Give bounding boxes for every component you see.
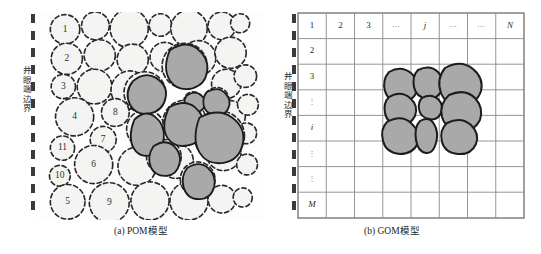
- svg-text:M: M: [307, 199, 316, 209]
- gom-grain-blobs: [382, 64, 482, 154]
- svg-text:⋯: ⋯: [392, 22, 401, 31]
- svg-text:7: 7: [101, 134, 106, 144]
- gom-diagram: 1 2 3 ⋯ j ⋯ ⋯ N 2 3 ⋮ i ⋮ ⋮ M .ggr{fill:…: [297, 12, 525, 219]
- svg-text:⋯: ⋯: [449, 22, 458, 31]
- gom-svg-canvas: 1 2 3 ⋯ j ⋯ ⋯ N 2 3 ⋮ i ⋮ ⋮ M .ggr{fill:…: [297, 12, 525, 219]
- pom-caption: (a) POM模型: [114, 223, 168, 237]
- svg-text:2: 2: [310, 45, 315, 55]
- svg-text:9: 9: [107, 197, 112, 207]
- svg-text:⋮: ⋮: [308, 97, 317, 106]
- svg-text:11: 11: [58, 142, 67, 152]
- svg-text:⋮: ⋮: [308, 174, 317, 183]
- svg-text:3: 3: [310, 71, 315, 81]
- svg-text:5: 5: [65, 196, 70, 206]
- pom-diagram: 1 2 3 4 11 10 5 9 6 7 8 .pc{fill:#f4f4f2…: [36, 12, 264, 220]
- svg-text:1: 1: [63, 24, 68, 34]
- svg-text:1: 1: [310, 20, 315, 30]
- svg-text:4: 4: [72, 111, 77, 121]
- svg-text:8: 8: [113, 107, 118, 117]
- svg-text:2: 2: [64, 53, 69, 63]
- pom-wellbore-boundary-dashes: [31, 14, 35, 218]
- gom-wellbore-boundary-dashes: [292, 14, 296, 218]
- figure-root: 井眼端边界: [0, 0, 541, 254]
- pom-svg-canvas: 1 2 3 4 11 10 5 9 6 7 8 .pc{fill:#f4f4f2…: [36, 12, 264, 220]
- svg-text:3: 3: [61, 81, 66, 91]
- gom-caption: (b) GOM模型: [364, 223, 420, 237]
- svg-text:3: 3: [366, 20, 371, 30]
- svg-text:j: j: [423, 20, 427, 30]
- svg-text:⋯: ⋯: [477, 22, 486, 31]
- svg-text:⋮: ⋮: [308, 149, 317, 158]
- svg-text:N: N: [506, 20, 514, 30]
- svg-text:6: 6: [91, 159, 96, 169]
- svg-text:10: 10: [55, 170, 65, 180]
- svg-text:2: 2: [338, 20, 343, 30]
